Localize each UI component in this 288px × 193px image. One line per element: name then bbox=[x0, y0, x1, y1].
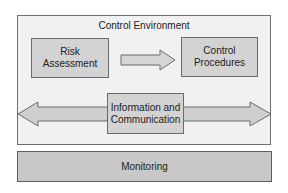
risk-assessment-label: Risk Assessment bbox=[43, 46, 97, 70]
arrow-right-icon bbox=[121, 50, 175, 70]
control-procedures-label: Control Procedures bbox=[194, 45, 245, 69]
monitoring-box: Monitoring bbox=[17, 151, 272, 182]
information-communication-label: Information and Communication bbox=[111, 102, 181, 126]
control-procedures-box: Control Procedures bbox=[181, 37, 258, 77]
monitoring-label: Monitoring bbox=[121, 161, 168, 173]
risk-assessment-box: Risk Assessment bbox=[31, 38, 109, 78]
information-communication-box: Information and Communication bbox=[107, 93, 184, 134]
